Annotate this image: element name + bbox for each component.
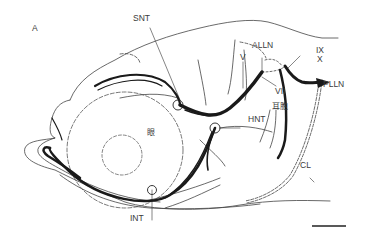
eye-lens — [102, 135, 142, 175]
label-x: X — [317, 55, 323, 64]
posterior-lateral-line-nerve — [285, 66, 322, 83]
infraorbital-nerve — [50, 128, 215, 201]
label-cl: CL — [300, 161, 311, 170]
supraorbital-nerve — [95, 75, 180, 105]
label-v: V — [240, 53, 246, 62]
label-snt: SNT — [133, 14, 150, 23]
head-outline — [70, 20, 338, 100]
anterior-lateral-line-nerve — [180, 72, 262, 115]
panel-label: A — [32, 24, 38, 33]
vagus-nerve — [278, 70, 286, 158]
label-plln: PLLN — [323, 80, 344, 89]
snout-inner-outline — [38, 138, 160, 202]
ventral-outline — [60, 175, 260, 209]
cl-canal — [245, 80, 319, 201]
label-vii: VII — [275, 87, 285, 96]
label-otic-vesicle: 耳胞 — [272, 103, 288, 111]
label-eye: 眼 — [147, 129, 155, 137]
label-int: INT — [130, 214, 144, 223]
label-hnt: HNT — [248, 115, 265, 124]
fish-head-nerve-drawing — [0, 0, 365, 243]
label-alln: ALLN — [252, 41, 273, 50]
diagram-canvas: A SNT ALLN IX X V VII PLLN 耳胞 眼 HNT CL I… — [0, 0, 365, 243]
